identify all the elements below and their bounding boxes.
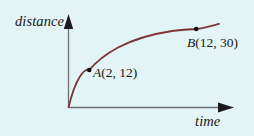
y-axis-title: distance	[15, 14, 64, 29]
point-label-a: A(2, 12)	[93, 66, 137, 80]
y-axis-arrow-icon	[64, 14, 73, 29]
x-axis-arrow-icon	[218, 103, 234, 113]
x-axis-title: time	[195, 114, 220, 129]
point-marker-b	[194, 27, 199, 32]
point-label-a-variable: A	[93, 65, 101, 80]
point-label-b-variable: B	[187, 35, 195, 50]
point-label-b-coords: (12, 30)	[195, 35, 238, 50]
point-label-b: B(12, 30)	[187, 36, 238, 50]
point-label-a-coords: (2, 12)	[101, 65, 137, 80]
point-marker-a	[87, 68, 92, 73]
distance-time-figure: distance time A(2, 12) B(12, 30)	[0, 0, 254, 136]
